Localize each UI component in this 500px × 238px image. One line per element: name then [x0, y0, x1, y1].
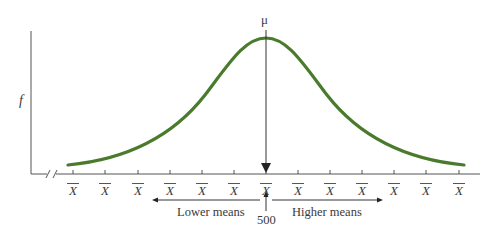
x-tick-label: X	[132, 183, 144, 197]
right-arrowhead-icon	[377, 198, 383, 203]
mean-label: μ	[261, 12, 268, 28]
y-axis-label: f	[19, 93, 23, 109]
center-value-label: 500	[257, 213, 276, 228]
mean-arrowhead-icon	[261, 163, 271, 173]
left-arrowhead-icon	[152, 198, 158, 203]
x-tick-label: X	[260, 183, 272, 197]
x-tick-label: X	[453, 183, 465, 197]
x-tick-label: X	[324, 183, 336, 197]
x-tick-label: X	[420, 183, 432, 197]
lower-means-label: Lower means	[177, 205, 245, 220]
x-tick-label: X	[228, 183, 240, 197]
x-tick-label: X	[292, 183, 304, 197]
x-tick-label: X	[67, 183, 79, 197]
distribution-diagram	[0, 0, 500, 238]
higher-means-label: Higher means	[292, 205, 362, 220]
x-tick-label: X	[356, 183, 368, 197]
x-tick-label: X	[164, 183, 176, 197]
x-tick-label: X	[99, 183, 111, 197]
x-tick-label: X	[388, 183, 400, 197]
x-tick-label: X	[196, 183, 208, 197]
